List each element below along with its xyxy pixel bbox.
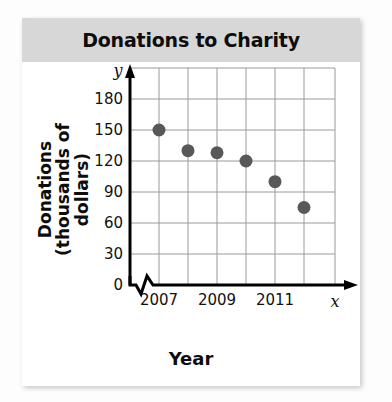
page-background: Donations to Charity Donations (thousand… (0, 0, 392, 402)
y-axis-line (125, 64, 135, 285)
data-point (269, 175, 282, 188)
y-axis-variable-label: y (112, 62, 123, 80)
data-point (211, 146, 224, 159)
scatter-plot: 0306090120150180 200720092011 y x (22, 62, 360, 386)
chart-title-band: Donations to Charity (22, 18, 360, 62)
x-tick-label: 2011 (256, 291, 294, 309)
y-tick-label: 180 (94, 90, 123, 108)
data-point (240, 155, 253, 168)
chart-card: Donations to Charity Donations (thousand… (22, 18, 360, 386)
data-points (153, 124, 311, 215)
y-tick-label: 60 (104, 214, 123, 232)
y-tick-label: 120 (94, 152, 123, 170)
chart-title: Donations to Charity (82, 29, 300, 51)
y-tick-label: 0 (113, 276, 123, 294)
y-tick-label: 90 (104, 183, 123, 201)
plot-area: Donations (thousands of dollars) (22, 62, 360, 386)
y-tick-labels: 0306090120150180 (94, 90, 123, 294)
x-axis-title: Year (22, 348, 360, 369)
data-point (182, 144, 195, 157)
x-axis-variable-label: x (330, 292, 339, 311)
x-tick-labels: 200720092011 (140, 291, 294, 309)
x-tick-label: 2009 (198, 291, 236, 309)
y-tick-label: 150 (94, 121, 123, 139)
y-tick-label: 30 (104, 245, 123, 263)
x-tick-label: 2007 (140, 291, 178, 309)
data-point (298, 201, 311, 214)
data-point (153, 124, 166, 137)
gridlines-vertical (159, 68, 335, 285)
